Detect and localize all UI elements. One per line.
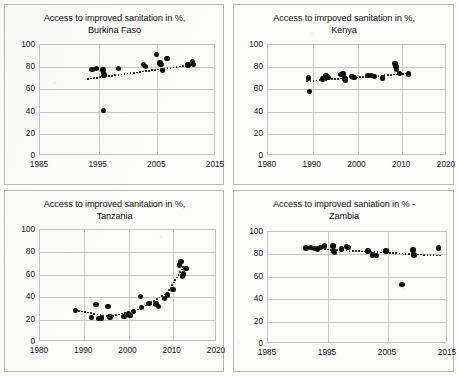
data-point <box>156 304 161 309</box>
y-axis-tick-label: 40 <box>0 292 35 301</box>
y-axis-tick-label: 60 <box>0 84 35 93</box>
trendline-segment <box>139 71 141 73</box>
data-point <box>131 309 136 314</box>
trendline-segment <box>156 298 158 300</box>
trendline-segment <box>133 72 135 74</box>
chart-panel-zambia: Access to improved saniation in % - Zamb… <box>229 188 459 376</box>
gridline-horizontal <box>268 89 445 90</box>
data-point <box>383 248 388 253</box>
y-axis-tick-label: 80 <box>0 247 35 256</box>
trendline-segment <box>337 78 339 80</box>
data-point <box>325 75 330 80</box>
trendline-segment <box>108 75 110 77</box>
gridline-horizontal <box>40 252 215 253</box>
data-point <box>107 314 112 319</box>
data-point <box>116 66 121 71</box>
trendline-segment <box>390 74 392 76</box>
gridline-vertical <box>99 45 100 154</box>
trendline-segment <box>115 314 117 316</box>
plot-area-zambia <box>267 231 447 343</box>
trendline-segment <box>361 251 363 253</box>
trendline-segment <box>359 76 361 78</box>
data-point <box>322 243 327 248</box>
trendline-segment <box>378 75 380 77</box>
data-point <box>101 72 106 77</box>
y-axis-tick-label: 80 <box>229 249 263 258</box>
x-axis-tick-label: 2005 <box>147 160 165 169</box>
x-axis-tick-label: 1980 <box>30 346 48 355</box>
x-axis-tick-label: 2010 <box>392 160 410 169</box>
y-axis-tick-label: 40 <box>229 106 263 115</box>
trendline-segment <box>111 75 113 77</box>
gridline-horizontal <box>40 89 214 90</box>
trendline-segment <box>118 74 120 76</box>
data-point <box>411 252 416 257</box>
gridline-horizontal <box>40 297 215 298</box>
gridline-vertical <box>402 45 403 154</box>
x-axis-tick-label: 2015 <box>438 348 456 357</box>
trendline-segment <box>136 72 138 74</box>
x-axis-tick-label: 2000 <box>347 160 365 169</box>
data-point <box>380 75 385 80</box>
y-axis-tick-label: 80 <box>229 62 263 71</box>
y-axis-tick-label: 40 <box>0 106 35 115</box>
plot-tanzania: 02040608010019801990200020102020 <box>0 188 229 376</box>
y-axis-tick-label: 20 <box>0 128 35 137</box>
trendline-segment <box>334 78 336 80</box>
y-axis-tick-label: 20 <box>0 314 35 323</box>
x-axis-tick-label: 2020 <box>207 346 225 355</box>
x-axis-tick-label: 1980 <box>258 160 276 169</box>
x-axis-tick-label: 2000 <box>118 346 136 355</box>
plot-area-kenya <box>267 44 446 155</box>
trendline-segment <box>358 250 360 252</box>
gridline-vertical <box>358 45 359 154</box>
data-point <box>436 245 441 250</box>
gridline-horizontal <box>268 322 446 323</box>
trendline-segment <box>389 252 391 254</box>
gridline-vertical <box>313 45 314 154</box>
trendline-segment <box>392 252 394 254</box>
trendline-segment <box>148 70 150 72</box>
data-point <box>306 75 311 80</box>
data-point <box>89 315 94 320</box>
x-axis-tick-label: 2005 <box>378 348 396 357</box>
trendline-segment <box>118 314 120 316</box>
plot-kenya: 02040608010019801990200020102020 <box>229 0 459 188</box>
trendline-segment <box>145 70 147 72</box>
gridline-horizontal <box>40 112 214 113</box>
trendline-segment <box>423 254 425 256</box>
panel-grid: Access to improved sanitation in %, Burk… <box>0 0 459 376</box>
gridline-horizontal <box>40 134 214 135</box>
data-point <box>332 250 337 255</box>
y-axis-tick-label: 60 <box>229 84 263 93</box>
data-point <box>345 245 350 250</box>
gridline-vertical <box>129 230 130 340</box>
data-point <box>181 271 186 276</box>
plot-area-tanzania <box>39 229 216 341</box>
data-point <box>146 301 151 306</box>
trendline-segment <box>387 74 389 76</box>
trendline-segment <box>96 77 98 79</box>
data-point <box>105 304 110 309</box>
chart-panel-kenya: Access to imrpoved sanitation in %, Keny… <box>229 0 459 188</box>
trendline-segment <box>171 284 173 286</box>
data-point <box>406 71 411 76</box>
y-axis-tick-label: 100 <box>0 225 35 234</box>
y-axis-tick-label: 100 <box>0 40 35 49</box>
chart-panel-burkina-faso: Access to improved sanitation in %, Burk… <box>0 0 229 188</box>
trendline-segment <box>93 77 95 79</box>
gridline-horizontal <box>268 134 445 135</box>
trendline-segment <box>78 310 80 312</box>
plot-burkina-faso: 0204060801001985199520052015 <box>0 0 229 188</box>
x-axis-tick-label: 1985 <box>258 348 276 357</box>
trendline-segment <box>352 250 354 252</box>
data-point <box>178 259 183 264</box>
y-axis-tick-label: 60 <box>229 271 263 280</box>
chart-panel-tanzania: Access to improved sanitation in %, Tanz… <box>0 188 229 376</box>
figure-sheet: Access to improved sanitation in %, Burk… <box>0 0 459 376</box>
trendline-segment <box>427 254 429 256</box>
data-point <box>372 74 377 79</box>
trendline-segment <box>137 309 139 311</box>
trendline-segment <box>380 252 382 254</box>
y-axis-tick-label: 80 <box>0 62 35 71</box>
